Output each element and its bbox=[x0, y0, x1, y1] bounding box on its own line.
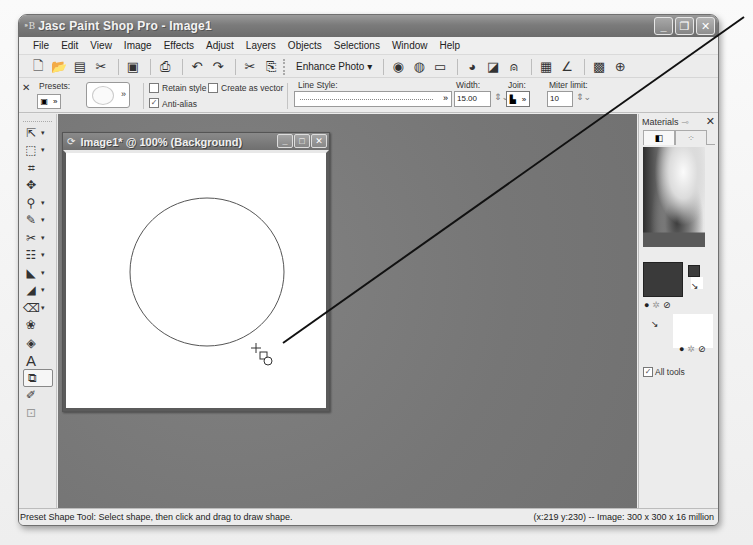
color-spectrum[interactable] bbox=[643, 147, 705, 247]
toolbar-separator bbox=[118, 59, 119, 75]
miter-limit-spinner[interactable]: ⇕⌄ bbox=[576, 92, 591, 102]
scan-icon[interactable]: ✂ bbox=[92, 58, 110, 76]
retain-style-checkbox[interactable] bbox=[149, 83, 159, 93]
color-balance-icon[interactable]: ◍ bbox=[410, 58, 428, 76]
enhance-photo-button[interactable]: Enhance Photo ▾ bbox=[290, 58, 378, 76]
color-style-icon[interactable]: ● bbox=[644, 300, 649, 310]
close-tool-options-icon[interactable]: ✕ bbox=[22, 82, 30, 93]
transparent-style-icon[interactable]: ⊘ bbox=[663, 300, 671, 310]
presets-dropdown[interactable]: ▣» bbox=[37, 94, 61, 109]
smudge-tool[interactable]: ◢▾ bbox=[23, 282, 53, 300]
foreground-color-swatch[interactable] bbox=[688, 265, 700, 277]
eraser-tool[interactable]: ⌫▾ bbox=[23, 299, 53, 317]
image-minimize-button[interactable]: _ bbox=[277, 134, 293, 148]
clarify-icon[interactable]: ▭ bbox=[431, 58, 449, 76]
menu-selections[interactable]: Selections bbox=[334, 40, 380, 51]
materials-palette: Materials ⊸ ✕ ◧ ⁘ ↘ ●✲⊘ ↘ ●✲⊘ ✓ bbox=[638, 114, 719, 509]
undo-icon[interactable]: ↶ bbox=[188, 58, 206, 76]
dropper-tool[interactable]: ⚲▾ bbox=[23, 194, 53, 212]
chevron-down-icon: » bbox=[522, 95, 526, 104]
redo-icon[interactable]: ↷ bbox=[209, 58, 227, 76]
move-icon: ✥ bbox=[23, 178, 39, 192]
crop-tool[interactable]: ⌗ bbox=[23, 159, 53, 177]
save-icon[interactable]: ▣ bbox=[124, 58, 142, 76]
foreground-material-swatch[interactable] bbox=[643, 262, 683, 297]
copy-icon[interactable]: ⎘ bbox=[262, 58, 280, 76]
selection-tool[interactable]: ⬚▾ bbox=[23, 142, 53, 160]
menu-edit[interactable]: Edit bbox=[61, 40, 78, 51]
miter-limit-input[interactable]: 10 bbox=[547, 91, 573, 107]
minimize-button[interactable]: _ bbox=[654, 17, 673, 35]
layers-icon[interactable]: ▩ bbox=[590, 58, 608, 76]
all-tools-option[interactable]: ✓ All tools bbox=[643, 367, 685, 377]
menu-image[interactable]: Image bbox=[124, 40, 152, 51]
picture-tube-tool[interactable]: ❀ bbox=[23, 317, 53, 335]
materials-header[interactable]: Materials ⊸ ✕ bbox=[639, 114, 719, 130]
menu-view[interactable]: View bbox=[90, 40, 112, 51]
materials-close-icon[interactable]: ✕ bbox=[706, 115, 715, 128]
foreground-style-buttons: ●✲⊘ bbox=[644, 300, 671, 310]
menu-layers[interactable]: Layers bbox=[246, 40, 276, 51]
pan-tool[interactable]: ⇱▾ bbox=[23, 124, 53, 142]
pin-icon[interactable]: ⊸ bbox=[682, 117, 690, 127]
width-label: Width: bbox=[456, 80, 480, 90]
workspace[interactable]: ⟳ Image1* @ 100% (Background) _ □ ✕ bbox=[58, 114, 637, 509]
chevron-down-icon: » bbox=[443, 93, 448, 103]
object-selector-tool[interactable]: ⊡ bbox=[23, 404, 53, 422]
print-icon[interactable]: ⎙ bbox=[156, 58, 174, 76]
background-material-swatch[interactable] bbox=[673, 314, 713, 348]
join-dropdown[interactable]: ▙» bbox=[506, 91, 530, 107]
perspective-icon[interactable]: ∠ bbox=[558, 58, 576, 76]
open-icon[interactable]: 📂 bbox=[50, 58, 68, 76]
menu-objects[interactable]: Objects bbox=[288, 40, 322, 51]
text-tool[interactable]: A bbox=[23, 352, 53, 370]
new-icon[interactable]: 🗋 bbox=[29, 58, 47, 76]
pen-tool[interactable]: ✐ bbox=[23, 387, 53, 405]
clone-brush-tool[interactable]: ✂▾ bbox=[23, 229, 53, 247]
menu-effects[interactable]: Effects bbox=[164, 40, 194, 51]
cut-icon[interactable]: ✂ bbox=[241, 58, 259, 76]
red-eye-icon[interactable]: ⍝ bbox=[505, 58, 523, 76]
tab-swatches[interactable]: ⁘ bbox=[675, 130, 707, 145]
menu-window[interactable]: Window bbox=[392, 40, 428, 51]
shape-dropdown[interactable]: » bbox=[86, 82, 130, 108]
gradient-style-icon[interactable]: ✲ bbox=[652, 300, 660, 310]
image-window-title-bar[interactable]: ⟳ Image1* @ 100% (Background) _ □ ✕ bbox=[63, 133, 329, 150]
all-tools-checkbox[interactable]: ✓ bbox=[643, 367, 653, 377]
contrast-icon[interactable]: ◪ bbox=[484, 58, 502, 76]
toolbar-grip[interactable] bbox=[283, 59, 286, 75]
menu-help[interactable]: Help bbox=[439, 40, 460, 51]
histogram-icon[interactable]: ▦ bbox=[537, 58, 555, 76]
fade-correction-icon[interactable]: ◕ bbox=[463, 58, 481, 76]
miter-limit-label: Miter limit: bbox=[549, 80, 588, 90]
create-as-vector-checkbox[interactable] bbox=[208, 83, 218, 93]
browse-icon[interactable]: ▤ bbox=[71, 58, 89, 76]
close-button[interactable]: ✕ bbox=[696, 17, 715, 35]
title-bar[interactable]: ⁍B Jasc Paint Shop Pro - Image1 _ ❐ ✕ bbox=[19, 15, 718, 37]
dodge-tool[interactable]: ◣▾ bbox=[23, 264, 53, 282]
image-maximize-button[interactable]: □ bbox=[294, 134, 310, 148]
transparent-style-icon[interactable]: ⊘ bbox=[698, 344, 706, 354]
one-step-photo-fix-icon[interactable]: ◉ bbox=[389, 58, 407, 76]
width-input[interactable]: 15.00 bbox=[454, 91, 491, 107]
move-tool[interactable]: ✥ bbox=[23, 177, 53, 195]
restore-button[interactable]: ❐ bbox=[675, 17, 694, 35]
picture-tube-icon: ❀ bbox=[23, 318, 39, 332]
palette-grip[interactable] bbox=[23, 116, 52, 122]
menu-file[interactable]: File bbox=[33, 40, 49, 51]
image-canvas[interactable] bbox=[66, 153, 326, 408]
color-style-icon[interactable]: ● bbox=[679, 344, 684, 354]
swap-colors-icon[interactable]: ↘ bbox=[691, 281, 699, 291]
line-style-dropdown[interactable]: » bbox=[294, 91, 452, 107]
flood-fill-tool[interactable]: ◈ bbox=[23, 334, 53, 352]
3d-icon[interactable]: ⊕ bbox=[611, 58, 629, 76]
paint-brush-tool[interactable]: ✎▾ bbox=[23, 212, 53, 230]
menu-adjust[interactable]: Adjust bbox=[206, 40, 234, 51]
swap-materials-icon[interactable]: ↘ bbox=[651, 319, 659, 329]
scratch-remover-tool[interactable]: ☷▾ bbox=[23, 247, 53, 265]
gradient-style-icon[interactable]: ✲ bbox=[687, 344, 695, 354]
tab-frame[interactable]: ◧ bbox=[643, 130, 675, 145]
image-close-button[interactable]: ✕ bbox=[311, 134, 327, 148]
preset-shape-tool[interactable]: ⧉ bbox=[23, 369, 53, 387]
anti-alias-checkbox[interactable]: ✓ bbox=[149, 98, 159, 108]
